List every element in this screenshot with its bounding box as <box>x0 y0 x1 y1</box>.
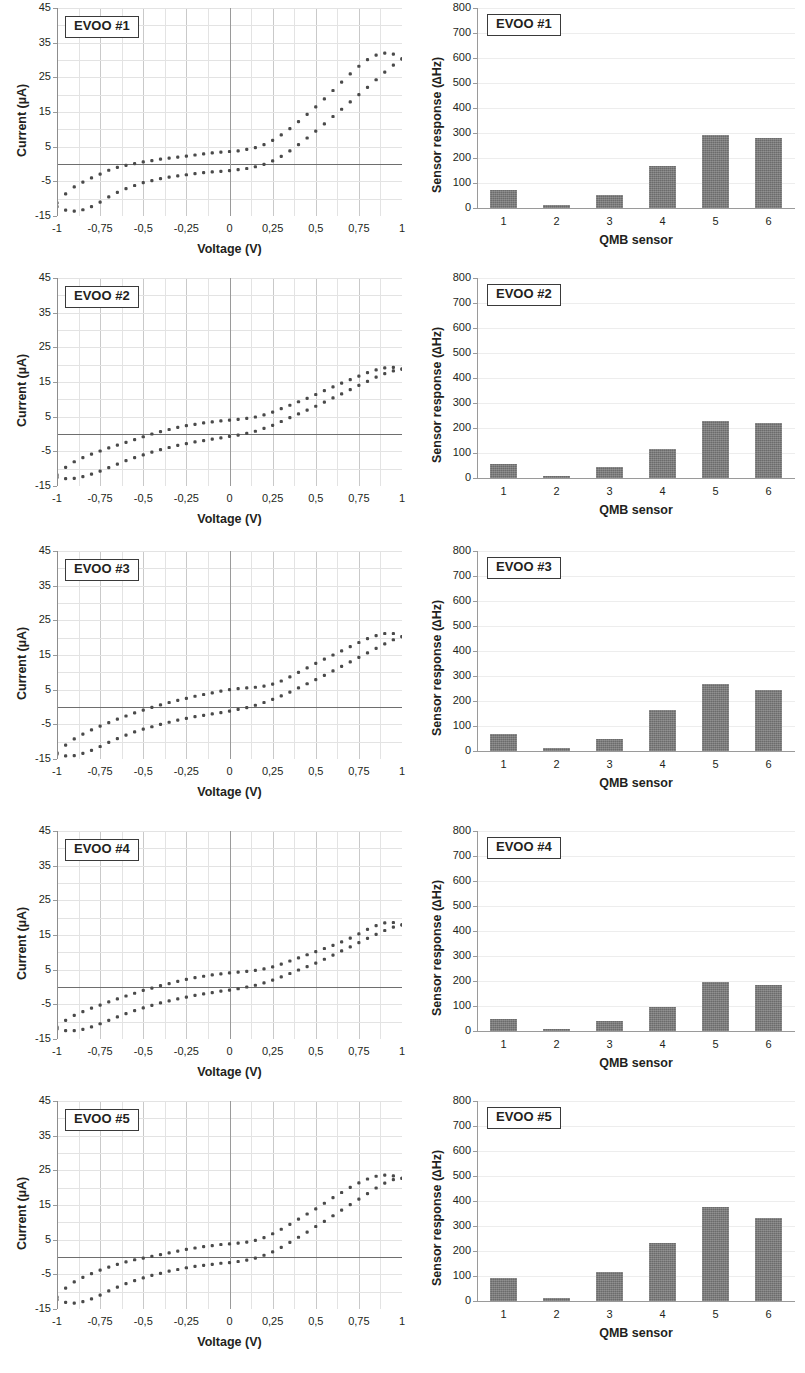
bar-texture <box>596 467 624 479</box>
cv-trace-3 <box>57 551 402 759</box>
cv-x-tick: 0,5 <box>296 492 336 504</box>
chart-row-5: 453525155-5-15-1-0,75-0,5-0,2500,250,50,… <box>0 1093 805 1373</box>
cv-forward-scan <box>57 1174 402 1299</box>
bar-texture <box>490 464 518 478</box>
cv-x-axis-title: Voltage (V) <box>170 785 290 799</box>
cv-y-tick: 45 <box>18 1094 51 1106</box>
cv-x-tick: -0,5 <box>123 1045 163 1057</box>
bar-x-tick: 2 <box>537 485 577 497</box>
bar-sample-label-4: EVOO #4 <box>487 837 561 859</box>
cv-y-tick: 35 <box>18 579 51 591</box>
bar-y-tick: 0 <box>435 1294 471 1306</box>
cv-sample-label-2: EVOO #2 <box>65 286 139 308</box>
bar-texture <box>596 1272 624 1302</box>
bar-texture <box>649 1243 677 1301</box>
cv-forward-scan <box>57 51 402 204</box>
bar-sensor-4 <box>649 1243 677 1301</box>
bar-sensor-6 <box>755 985 783 1031</box>
bar-texture <box>596 195 624 208</box>
cv-reverse-scan <box>57 635 402 757</box>
bar-x-tick: 4 <box>643 485 683 497</box>
bar-x-tick: 3 <box>590 485 630 497</box>
bar-gridline <box>477 1176 795 1177</box>
cv-panel-3: 453525155-5-15-1-0,75-0,5-0,2500,250,50,… <box>0 543 415 823</box>
cv-y-axis-line <box>57 551 58 759</box>
cv-y-tick: 45 <box>18 1 51 13</box>
bar-sensor-1 <box>490 734 518 752</box>
bar-y-tick: 0 <box>435 1024 471 1036</box>
cv-y-tick: -5 <box>18 997 51 1009</box>
bar-x-axis-line <box>477 751 795 752</box>
bar-plot-area-4 <box>477 831 795 1031</box>
cv-x-tick: -0,5 <box>123 492 163 504</box>
bar-texture <box>649 710 677 752</box>
bar-sensor-5 <box>702 982 730 1032</box>
cv-x-tick: -1 <box>37 1315 77 1327</box>
bar-x-tick: 4 <box>643 758 683 770</box>
bar-x-tick: 6 <box>749 485 789 497</box>
cv-y-tick: 25 <box>18 1163 51 1175</box>
bar-gridline <box>477 626 795 627</box>
bar-texture <box>596 739 624 751</box>
cv-y-tick: -5 <box>18 717 51 729</box>
bar-gridline <box>477 1226 795 1227</box>
bar-y-tick: 800 <box>435 271 471 283</box>
bar-sensor-4 <box>649 1007 677 1031</box>
chart-row-2: 453525155-5-15-1-0,75-0,5-0,2500,250,50,… <box>0 270 805 543</box>
bar-x-axis-line <box>477 1031 795 1032</box>
bar-gridline <box>477 158 795 159</box>
bar-gridline <box>477 726 795 727</box>
bar-x-tick: 2 <box>537 1038 577 1050</box>
cv-x-tick: 0,25 <box>253 492 293 504</box>
cv-trace-1 <box>57 8 402 216</box>
bar-x-axis-line <box>477 478 795 479</box>
cv-plot-area-4 <box>57 831 402 1039</box>
bar-gridline <box>477 1276 795 1277</box>
bar-y-axis-line <box>477 278 478 478</box>
cv-y-tick: 25 <box>18 893 51 905</box>
cv-forward-scan <box>57 366 402 477</box>
bar-x-tick: 2 <box>537 1308 577 1320</box>
cv-plot-area-1 <box>57 8 402 216</box>
bar-sensor-3 <box>596 739 624 751</box>
bar-texture <box>702 421 730 478</box>
bar-x-tick: 5 <box>696 1308 736 1320</box>
cv-y-tick: 35 <box>18 306 51 318</box>
bar-panel-4: 8007006005004003002001000123456QMB senso… <box>415 823 805 1093</box>
bar-x-axis-title: QMB sensor <box>566 1326 706 1340</box>
bar-y-tick: 700 <box>435 849 471 861</box>
cv-x-tick: 0,25 <box>253 1045 293 1057</box>
bar-y-tick: 0 <box>435 201 471 213</box>
cv-panel-1: 453525155-5-15-1-0,75-0,5-0,2500,250,50,… <box>0 0 415 270</box>
cv-x-tick: -0,75 <box>80 1045 120 1057</box>
cv-x-tick: -1 <box>37 222 77 234</box>
bar-gridline <box>477 453 795 454</box>
cv-y-tick: -15 <box>18 209 51 221</box>
bar-y-axis-title: Sensor response (∆Hz) <box>430 327 444 463</box>
bar-gridline <box>477 701 795 702</box>
cv-x-tick: 0,75 <box>339 222 379 234</box>
bar-sensor-3 <box>596 1272 624 1302</box>
cv-y-axis-title: Current (µA) <box>15 907 29 980</box>
cv-plot-area-2 <box>57 278 402 486</box>
bar-plot-area-1 <box>477 8 795 208</box>
cv-y-tick: 45 <box>18 271 51 283</box>
cv-y-tick: 25 <box>18 70 51 82</box>
bar-sensor-4 <box>649 449 677 479</box>
bar-sensor-3 <box>596 1021 624 1031</box>
bar-texture <box>649 1007 677 1031</box>
bar-plot-area-3 <box>477 551 795 751</box>
bar-y-axis-title: Sensor response (∆Hz) <box>430 880 444 1016</box>
bar-gridline <box>477 881 795 882</box>
bar-x-tick: 6 <box>749 1308 789 1320</box>
bar-gridline <box>477 403 795 404</box>
cv-x-tick: -0,5 <box>123 1315 163 1327</box>
cv-y-tick: -5 <box>18 174 51 186</box>
cv-reverse-scan <box>57 1177 402 1305</box>
cv-y-tick: -5 <box>18 444 51 456</box>
bar-texture <box>490 1278 518 1302</box>
cv-x-tick: -1 <box>37 1045 77 1057</box>
bar-sensor-3 <box>596 467 624 479</box>
cv-x-tick: 0,75 <box>339 765 379 777</box>
bar-x-tick: 5 <box>696 1038 736 1050</box>
